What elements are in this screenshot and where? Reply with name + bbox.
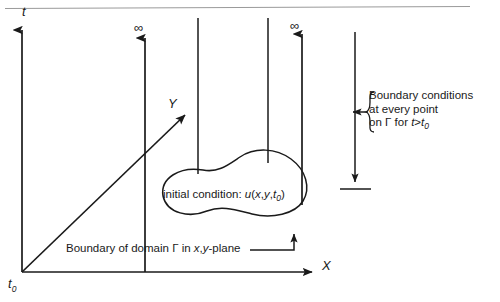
t-axis-label: t (22, 4, 26, 19)
boundary-conditions-label: Boundary conditions at every point on Γ … (369, 89, 473, 131)
domain-boundary-text-a: Boundary of domain (66, 242, 172, 254)
domain-boundary-text-b: in (178, 242, 193, 254)
boundary-conditions-line-3-b: for (391, 116, 411, 128)
y-axis-label: Y (168, 96, 177, 111)
origin-label-subscript: 0 (12, 284, 17, 294)
boundary-conditions-line-3-a: on (369, 116, 385, 128)
diagram-vector-layer (0, 0, 500, 302)
diagram-canvas: t t0 X Y ∞ ∞ initial condition: u(x,y,t0… (0, 0, 500, 302)
top-cut-rule (5, 7, 470, 9)
infinity-label-right: ∞ (290, 18, 299, 33)
initial-condition-label: initial condition: u(x,y,t0) (163, 188, 285, 203)
domain-boundary-text-c: -plane (209, 242, 241, 254)
initial-condition-paren-close: ) (281, 188, 285, 200)
boundary-leader-line (250, 234, 294, 250)
boundary-conditions-line-1: Boundary conditions (369, 89, 473, 103)
boundary-conditions-line-3: on Γ for t>t0 (369, 116, 473, 131)
domain-blob (163, 150, 307, 216)
origin-label: t0 (8, 276, 16, 294)
vertical-rays-group (145, 18, 302, 272)
initial-condition-prefix: initial condition: (163, 188, 245, 200)
boundary-conditions-line-2: at every point (369, 103, 473, 117)
domain-boundary-label: Boundary of domain Γ in x,y-plane (66, 242, 240, 256)
bc-t0-subscript: 0 (424, 121, 429, 131)
x-axis-label: X (322, 258, 331, 273)
infinity-label-left: ∞ (134, 20, 143, 35)
